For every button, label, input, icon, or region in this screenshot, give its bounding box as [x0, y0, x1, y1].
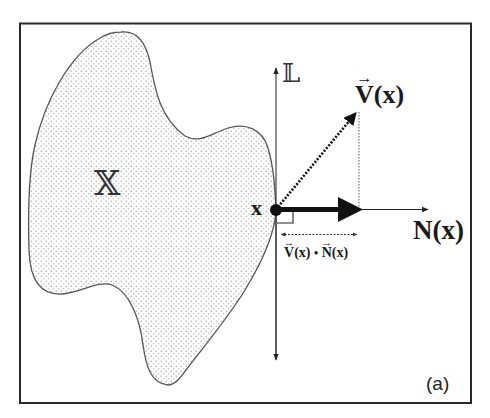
point-x-dot — [270, 204, 282, 216]
line-l-label: 𝕃 — [282, 60, 300, 86]
n-symbol-text: N — [413, 215, 433, 245]
proj-n-arg: (x) — [332, 245, 348, 260]
n-arg-text: (x) — [433, 215, 464, 245]
diagram-canvas — [0, 0, 490, 418]
normal-n-label: N(x) — [413, 217, 464, 244]
dot-product-symbol: • — [314, 246, 318, 260]
proj-n-symbol: → N — [322, 246, 332, 260]
projection-label: → V (x) • → N (x) — [284, 246, 348, 260]
vector-arrow-icon: → — [284, 237, 295, 248]
vector-v-label: → V (x) — [355, 82, 404, 108]
proj-v-arg: (x) — [294, 245, 310, 260]
vector-arrow-icon: → — [321, 237, 332, 248]
panel-label: (a) — [426, 374, 449, 393]
region-x-label: 𝕏 — [94, 166, 120, 200]
vector-v-symbol: → V — [355, 82, 374, 108]
proj-v-symbol: → V — [284, 246, 294, 260]
v-arg-text: (x) — [374, 80, 404, 109]
point-x-label: x — [251, 197, 262, 219]
vector-arrow-icon: → — [356, 70, 372, 86]
